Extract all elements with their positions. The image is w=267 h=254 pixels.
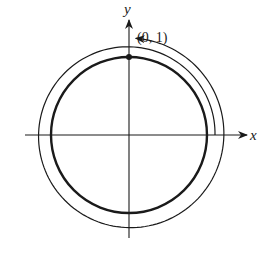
y-axis-label: y (122, 1, 131, 17)
y-axis: y (122, 1, 131, 238)
winding-spiral-arrow (39, 38, 224, 227)
point-label: (0, 1) (137, 30, 168, 46)
point-0-1-dot (126, 54, 132, 60)
unit-circle-diagram: x y (0, 1) (0, 0, 267, 254)
x-axis: x (25, 127, 257, 143)
x-axis-label: x (249, 127, 257, 143)
